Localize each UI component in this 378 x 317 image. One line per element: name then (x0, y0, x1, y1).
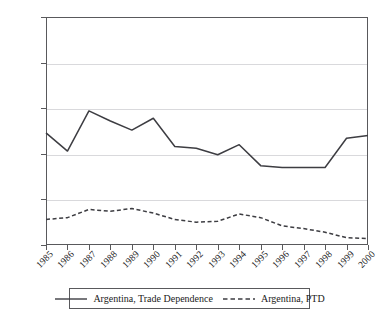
legend-swatch-dashed-icon (222, 294, 256, 304)
legend-entry-ptd: Argentina, PTD (222, 293, 325, 304)
x-axis-tick-label: 2000 (352, 249, 377, 274)
legend-label-trade-dependence: Argentina, Trade Dependence (93, 293, 213, 304)
x-axis-tick-label: 1990 (137, 249, 162, 274)
legend-label-ptd: Argentina, PTD (261, 293, 325, 304)
x-axis-tick-label: 1992 (180, 249, 205, 274)
x-axis-tick-label: 1986 (51, 249, 76, 274)
x-axis-tick-label: 1996 (266, 249, 291, 274)
x-axis-tick-label: 1989 (115, 249, 140, 274)
x-axis-tick-label: 1995 (244, 249, 269, 274)
chart-legend: Argentina, Trade Dependence Argentina, P… (69, 288, 310, 309)
legend-entry-trade-dependence: Argentina, Trade Dependence (54, 293, 213, 304)
legend-swatch-solid-icon (54, 294, 88, 304)
chart-container: 0%5%10%15%20%25% 19851986198719881989199… (0, 0, 378, 317)
x-axis-tick-label: 1993 (201, 249, 226, 274)
x-axis-tick-label: 1987 (73, 249, 98, 274)
x-axis-tick-label: 1994 (223, 249, 248, 274)
series-line-trade-dependence (46, 111, 368, 168)
x-axis-tick-label: 1999 (330, 249, 355, 274)
x-axis-tick-label: 1997 (287, 249, 312, 274)
x-axis-tick-label: 1991 (158, 249, 183, 274)
x-axis-tick-label: 1988 (94, 249, 119, 274)
data-series-layer (46, 17, 368, 245)
x-axis-tick-label: 1998 (309, 249, 334, 274)
series-line-ptd (46, 209, 368, 239)
